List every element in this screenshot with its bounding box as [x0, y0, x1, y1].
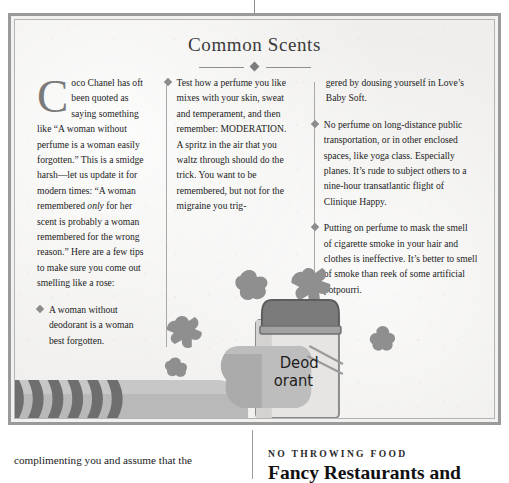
sidebar-column-1: Coco Chanel has oft been quoted as sayin… — [15, 75, 153, 348]
title-ornament-rule — [199, 61, 311, 73]
col1-bullet-1-text: A woman without deodorant is a woman bes… — [49, 302, 145, 348]
diamond-bullet-icon — [311, 120, 319, 128]
sidebar-column-2: Test how a perfume you like mixes with y… — [153, 75, 298, 348]
arm-highlight — [15, 380, 246, 394]
deodorant-label: Deod orant — [274, 354, 319, 390]
sidebar-columns: Coco Chanel has oft been quoted as sayin… — [15, 75, 494, 348]
article-kicker: NO THROWING FOOD — [268, 448, 498, 459]
col3-bullet-item-2: Putting on perfume to mask the smell of … — [312, 220, 478, 297]
finger-lines — [307, 346, 343, 374]
col3-bullet-item-1: No perfume on long-distance public trans… — [312, 117, 478, 209]
col1-intro-paragraph: Coco Chanel has oft been quoted as sayin… — [37, 75, 145, 291]
deodorant-label-line2: orant — [274, 372, 314, 390]
common-scents-sidebar-box: Common Scents Coco Chanel has oft been q… — [8, 13, 501, 425]
drop-cap-letter: C — [37, 75, 71, 115]
arm-shape — [15, 380, 248, 418]
col1-body-part2: for her scent is probably a woman rememb… — [37, 200, 144, 288]
ornament-line-left — [199, 67, 244, 68]
top-connector-tick — [254, 0, 255, 14]
diamond-bullet-icon — [311, 223, 319, 231]
diamond-bullet-icon — [36, 304, 44, 312]
ornament-diamond-icon — [250, 62, 260, 72]
thumb-shape — [221, 354, 262, 408]
sidebar-title: Common Scents — [15, 34, 494, 56]
sidebar-box-inner: Common Scents Coco Chanel has oft been q… — [14, 19, 495, 419]
diamond-bullet-icon — [163, 78, 171, 86]
col1-bullet-item-1: A woman without deodorant is a woman bes… — [37, 302, 145, 348]
bottom-right-column: NO THROWING FOOD Fancy Restaurants and — [268, 448, 498, 483]
bottom-column-divider — [252, 430, 253, 479]
col1-body-italic: only — [87, 200, 104, 211]
col2-bullet-item-1: Test how a perfume you like mixes with y… — [165, 75, 288, 214]
col2-bullet-1-text: Test how a perfume you like mixes with y… — [177, 75, 288, 214]
sidebar-column-3: gered by dousing yourself in Love’s Baby… — [298, 75, 494, 348]
col3-bullet-2-text: Putting on perfume to mask the smell of … — [324, 220, 478, 297]
col3-bullet-1-text: No perfume on long-distance public trans… — [324, 117, 478, 209]
page-bottom-region: complimenting you and assume that the NO… — [0, 430, 509, 479]
sleeve-stripes — [15, 380, 123, 418]
article-headline: Fancy Restaurants and — [268, 462, 498, 483]
col3-continuation-text: gered by dousing yourself in Love’s Baby… — [312, 75, 478, 106]
hand-shape — [221, 346, 311, 408]
ornament-line-right — [266, 67, 311, 68]
deodorant-label-line1: Deod — [280, 354, 319, 372]
bottom-left-body-text: complimenting you and assume that the — [14, 452, 242, 468]
